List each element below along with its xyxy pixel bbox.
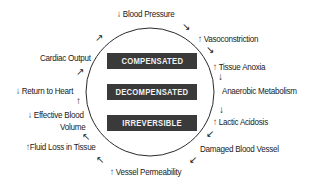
arrow-up-left-icon: ↖ xyxy=(82,132,90,142)
label-return-to-heart: ↓ Return to Heart xyxy=(16,86,73,96)
label-vasoconstriction: ↑ Vasoconstriction xyxy=(198,34,258,44)
stage-label: DECOMPENSATED xyxy=(116,87,189,97)
label-blood-pressure: ↓ Blood Pressure xyxy=(117,9,174,19)
label-text: Volume xyxy=(60,121,85,132)
label-lactic-acidosis: ↑ Lactic Acidosis xyxy=(213,117,268,127)
arrow-down-right-icon: ↘ xyxy=(182,22,190,32)
increase-arrow-icon: ↑ xyxy=(110,166,114,177)
label-text: Cardiac Output xyxy=(40,52,91,63)
label-text: Blood Pressure xyxy=(123,8,175,19)
stage-decompensated: DECOMPENSATED xyxy=(107,84,197,100)
increase-arrow-icon: ↑ xyxy=(198,33,202,44)
label-effective-blood-volume-line2: Volume xyxy=(60,122,85,132)
decrease-arrow-icon: ↓ xyxy=(28,109,32,120)
arrow-up-right-icon: ↗ xyxy=(95,33,103,43)
arrow-down-icon: ↓ xyxy=(218,72,223,82)
label-text: Vessel Permeability xyxy=(116,166,182,177)
label-text: Fluid Loss in Tissue xyxy=(30,141,96,152)
arrow-down-left-icon: ↙ xyxy=(189,155,197,165)
label-text: Damaged Blood Vessel xyxy=(200,143,279,154)
arrow-down-icon: ↓ xyxy=(219,105,224,115)
label-text: Return to Heart xyxy=(22,85,73,96)
increase-arrow-icon: ↑ xyxy=(213,116,217,127)
label-vessel-permeability: ↑ Vessel Permeability xyxy=(110,167,181,177)
label-damaged-blood-vessel: Damaged Blood Vessel xyxy=(200,144,279,154)
label-anaerobic-metabolism: Anaerobic Metabolism xyxy=(222,86,297,96)
stage-label: COMPENSATED xyxy=(121,56,183,66)
decrease-arrow-icon: ↓ xyxy=(16,85,20,96)
decrease-arrow-icon: ↓ xyxy=(117,8,121,19)
arrow-down-right-icon: ↘ xyxy=(206,45,214,55)
label-fluid-loss-in-tissue: ↑Fluid Loss in Tissue xyxy=(26,142,96,152)
stage-label: IRREVERSIBLE xyxy=(122,118,182,128)
label-text: Lactic Acidosis xyxy=(219,116,268,127)
increase-arrow-icon: ↑ xyxy=(213,61,217,72)
arrow-up-icon: ↑ xyxy=(76,96,81,106)
label-cardiac-output: Cardiac Output xyxy=(40,53,91,63)
stage-irreversible: IRREVERSIBLE xyxy=(107,115,197,131)
stage-compensated: COMPENSATED xyxy=(107,53,197,69)
label-text: Vasoconstriction xyxy=(204,33,259,44)
label-text: Anaerobic Metabolism xyxy=(222,85,297,96)
label-text: Effective Blood xyxy=(34,109,84,120)
arrow-down-left-icon: ↙ xyxy=(206,129,214,139)
label-effective-blood-volume: ↓ Effective Blood xyxy=(28,110,84,120)
arrow-up-right-icon: ↗ xyxy=(76,67,84,77)
label-text: Tissue Anoxia xyxy=(219,61,266,72)
arrow-up-left-icon: ↖ xyxy=(96,155,104,165)
